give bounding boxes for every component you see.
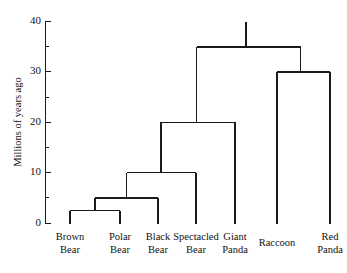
leaf-label-red-panda-line2: Panda	[317, 244, 343, 255]
leaf-label-raccoon-line1: Raccoon	[259, 237, 296, 248]
leaf-label-polar-bear-line1: Polar	[109, 231, 132, 242]
leaf-label-brown-bear-line1: Brown	[56, 231, 85, 242]
leaf-label-black-bear-line1: Black	[146, 231, 171, 242]
leaf-label-giant-panda-line1: Giant	[223, 231, 246, 242]
leaf-stems	[70, 72, 330, 224]
leaf-label-black-bear-line2: Bear	[148, 244, 168, 255]
y-tick-label-40: 40	[30, 14, 42, 26]
y-axis-title: Millions of years ago	[12, 77, 23, 167]
leaf-label-red-panda-line1: Red	[322, 231, 340, 242]
leaf-label-spectacled-bear-line1: Spectacled	[173, 231, 219, 242]
leaf-label-spectacled-bear-line2: Bear	[186, 244, 206, 255]
y-tick-label-0: 0	[36, 216, 42, 228]
leaf-label-polar-bear-line2: Bear	[110, 244, 130, 255]
y-tick-label-20: 20	[30, 115, 42, 127]
y-axis-major-ticks	[46, 22, 52, 224]
leaf-labels: Brown Bear Polar Bear Black Bear Spectac…	[56, 231, 343, 255]
leaf-label-giant-panda-line2: Panda	[222, 244, 248, 255]
tree-diagram: 40 30 20 10 0 Millions of years ago	[0, 0, 347, 273]
y-tick-label-30: 30	[30, 64, 42, 76]
leaf-label-brown-bear-line2: Bear	[60, 244, 80, 255]
phylogenetic-tree-figure: 40 30 20 10 0 Millions of years ago	[0, 0, 347, 273]
y-tick-label-10: 10	[30, 165, 42, 177]
figure-container: 40 30 20 10 0 Millions of years ago	[0, 0, 347, 273]
